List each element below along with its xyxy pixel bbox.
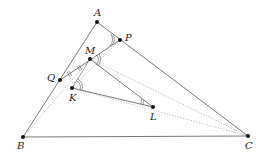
- point-C: [246, 134, 250, 138]
- angle-mark-L2: [141, 99, 142, 104]
- angle-mark-P2: [110, 34, 113, 46]
- point-L: [151, 105, 155, 109]
- point-M: [88, 57, 92, 61]
- point-A: [95, 20, 99, 24]
- label-A: A: [94, 8, 101, 18]
- point-P: [118, 38, 122, 42]
- geometry-diagram: A P M Q K L B C: [0, 0, 271, 159]
- label-Q: Q: [47, 73, 55, 83]
- dotted-PK: [72, 40, 120, 88]
- point-K: [70, 86, 74, 90]
- segment-MK: [72, 59, 90, 88]
- tick-QM-1: [67, 72, 70, 77]
- point-Q: [58, 78, 62, 82]
- label-C: C: [245, 141, 253, 151]
- label-M: M: [85, 46, 95, 56]
- segment-BC: [23, 136, 248, 137]
- label-L: L: [150, 112, 157, 122]
- dotted-KC: [72, 88, 248, 136]
- label-K: K: [69, 93, 76, 103]
- label-B: B: [17, 141, 24, 151]
- label-P: P: [125, 33, 132, 43]
- diagram-svg: [0, 0, 271, 159]
- angle-mark-L: [143, 100, 144, 105]
- point-B: [21, 135, 25, 139]
